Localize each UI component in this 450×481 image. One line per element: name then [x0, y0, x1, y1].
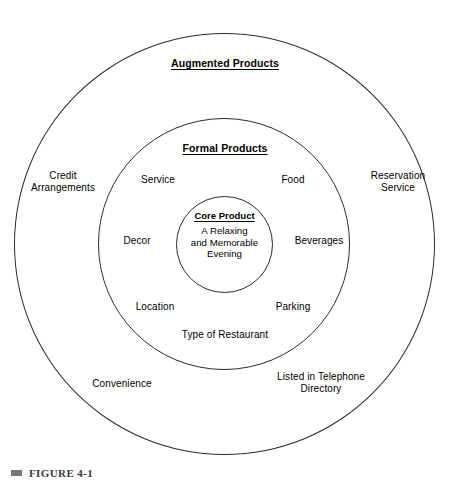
formal-item-food: Food — [248, 174, 338, 186]
square-bullet-icon — [11, 470, 22, 476]
augmented-item-listed-in-telephone-directory: Listed in TelephoneDirectory — [262, 371, 380, 395]
formal-item-beverages: Beverages — [272, 235, 366, 247]
levels-of-product-diagram: Augmented Products Formal Products Credi… — [0, 0, 450, 481]
formal-item-parking: Parking — [248, 301, 338, 313]
figure-caption-text: FIGURE 4-1 — [29, 467, 93, 479]
augmented-item-credit-arrangements: CreditArrangements — [17, 170, 109, 194]
formal-item-decor: Decor — [92, 235, 182, 247]
augmented-item-reservation-service: ReservationService — [350, 170, 446, 194]
augmented-item-convenience: Convenience — [62, 378, 182, 390]
augmented-products-title: Augmented Products — [0, 57, 450, 70]
formal-products-title: Formal Products — [0, 142, 450, 155]
formal-item-service: Service — [113, 174, 203, 186]
formal-item-location: Location — [110, 301, 200, 313]
figure-caption: FIGURE 4-1 — [11, 467, 93, 479]
core-product-content: Core Product A Relaxingand MemorableEven… — [176, 210, 273, 260]
core-product-title: Core Product — [176, 210, 273, 221]
core-product-description: A Relaxingand MemorableEvening — [176, 225, 273, 260]
formal-item-type-of-restaurant: Type of Restaurant — [155, 329, 295, 341]
